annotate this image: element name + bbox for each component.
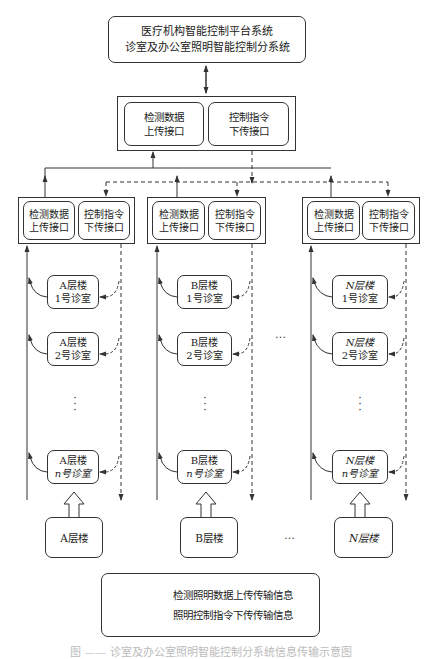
floor-n-upload-interface: 检测数据 上传接口 — [307, 201, 360, 240]
room-label: 1号诊室 — [342, 292, 378, 305]
room-b-n: B层楼 n号诊室 — [177, 450, 232, 484]
legend-solid-row: 检测照明数据上传传输信息 — [173, 587, 293, 602]
room-floor-label: N层楼 — [346, 336, 375, 349]
room-floor-label: B层楼 — [191, 279, 218, 292]
room-label: n号诊室 — [186, 467, 222, 480]
room-n-1: N层楼 1号诊室 — [332, 275, 388, 309]
room-a-2: A层楼 2号诊室 — [47, 332, 99, 366]
room-floor-label: A层楼 — [59, 336, 86, 349]
column-ellipsis: … — [275, 328, 286, 341]
legend-dashed-row: 照明控制指令下传传输信息 — [173, 607, 293, 622]
hollow-up-arrow-b — [196, 492, 216, 517]
room-label: 2号诊室 — [55, 349, 91, 362]
platform-system-title: 医疗机构智能控制平台系统 — [141, 24, 273, 40]
vertical-ellipsis-n: ··· — [355, 396, 365, 414]
room-b-1: B层楼 1号诊室 — [177, 275, 232, 309]
room-floor-label: A层楼 — [59, 454, 86, 467]
room-a-n: A层楼 n号诊室 — [47, 450, 99, 484]
hollow-up-arrow-a — [64, 492, 84, 517]
vertical-ellipsis-a: ··· — [70, 396, 80, 414]
room-floor-label: B层楼 — [191, 454, 218, 467]
floor-n-label: N层楼 — [349, 531, 378, 545]
floor-a-download-interface: 控制指令 下传接口 — [78, 201, 130, 240]
room-label: 2号诊室 — [342, 349, 378, 362]
vertical-ellipsis-b: ··· — [200, 396, 210, 414]
floor-n-box: N层楼 — [334, 517, 393, 558]
room-label: 2号诊室 — [186, 349, 222, 362]
room-label: 1号诊室 — [186, 292, 222, 305]
central-upload-interface: 检测数据 上传接口 — [124, 102, 204, 146]
room-label: 1号诊室 — [55, 292, 91, 305]
central-download-interface: 控制指令 下传接口 — [208, 102, 289, 146]
room-floor-label: B层楼 — [191, 336, 218, 349]
figure-caption: 图 —— 诊室及办公室照明智能控制分系统信息传输示意图 — [70, 643, 352, 659]
room-floor-label: A层楼 — [59, 279, 86, 292]
room-n-2: N层楼 2号诊室 — [332, 332, 388, 366]
floor-n-download-interface: 控制指令 下传接口 — [362, 201, 415, 240]
room-label: n号诊室 — [55, 467, 91, 480]
legend-dashed-label: 照明控制指令下传传输信息 — [173, 607, 293, 622]
floor-b-upload-interface: 检测数据 上传接口 — [152, 201, 205, 240]
legend-box — [101, 573, 320, 637]
floor-a-box: A层楼 — [45, 517, 103, 558]
room-label: n号诊室 — [342, 467, 378, 480]
floor-ellipsis: … — [284, 529, 295, 542]
floor-b-box: B层楼 — [180, 517, 238, 558]
room-floor-label: N层楼 — [346, 279, 375, 292]
subsystem-title: 诊室及办公室照明智能控制分系统 — [125, 40, 290, 56]
room-a-1: A层楼 1号诊室 — [47, 275, 99, 309]
room-floor-label: N层楼 — [346, 454, 375, 467]
legend-solid-label: 检测照明数据上传传输信息 — [173, 587, 293, 602]
hollow-up-arrow-n — [350, 492, 370, 517]
platform-system-box: 医疗机构智能控制平台系统 诊室及办公室照明智能控制分系统 — [108, 16, 306, 63]
room-n-n: N层楼 n号诊室 — [332, 450, 388, 484]
floor-b-download-interface: 控制指令 下传接口 — [208, 201, 261, 240]
floor-a-upload-interface: 检测数据 上传接口 — [23, 201, 75, 240]
room-b-2: B层楼 2号诊室 — [177, 332, 232, 366]
